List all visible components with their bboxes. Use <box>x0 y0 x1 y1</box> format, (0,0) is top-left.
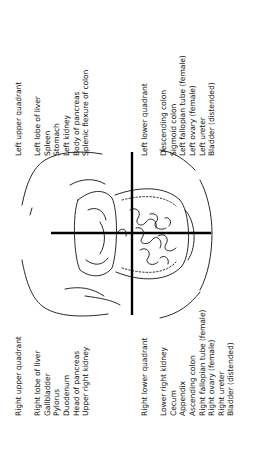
quadrant-right-upper: Right upper quadrant Right lobe of liver… <box>14 336 91 416</box>
organ-label: Right lobe of liver <box>33 336 43 416</box>
organ-label: Spleen <box>43 70 53 156</box>
organ-label: Right ureter <box>217 310 227 416</box>
organ-label: Bladder (distended) <box>207 55 217 156</box>
organ-label: Left ovary (female) <box>188 55 198 156</box>
organ-label: Right fallopian tube (female) <box>198 310 208 416</box>
organ-label: Duodenum <box>62 336 72 416</box>
organ-label: Appendix <box>178 310 188 416</box>
quadrant-left-upper: Left upper quadrant Left lobe of liver S… <box>14 70 91 156</box>
organ-label: Cecum <box>169 310 179 416</box>
organ-label: Head of pancreas <box>72 336 82 416</box>
torso-outline-top <box>22 152 102 205</box>
organ-label: Left fallopian tube (female) <box>178 55 188 156</box>
organ-label: Lower right kidney <box>159 310 169 416</box>
organ-label: Sigmoid colon <box>169 55 179 156</box>
quadrant-header: Left lower quadrant <box>140 55 150 156</box>
torso-outline-bottom <box>22 260 108 316</box>
organ-label: Bladder (distended) <box>226 310 236 416</box>
organ-label: Left kidney <box>62 70 72 156</box>
organ-label: Right ovary (female) <box>207 310 217 416</box>
organ-label: Gallbladder <box>43 336 53 416</box>
organ-label: Body of pancreas <box>72 70 82 156</box>
quadrant-header: Right upper quadrant <box>14 336 24 416</box>
organ-label: Stomach <box>52 70 62 156</box>
organ-label: Upper right kidney <box>81 336 91 416</box>
quadrant-left-lower: Left lower quadrant Descending colon Sig… <box>140 55 217 156</box>
organ-label: Ascending colon <box>188 310 198 416</box>
organ-label: Splenic flexure of colon <box>81 70 91 156</box>
organ-label: Pylorus <box>52 336 62 416</box>
organ-label: Descending colon <box>159 55 169 156</box>
quadrant-right-lower: Right lower quadrant Lower right kidney … <box>140 310 236 416</box>
organ-label: Left ureter <box>198 55 208 156</box>
organ-label: Left lobe of liver <box>33 70 43 156</box>
quadrant-header: Right lower quadrant <box>140 310 150 416</box>
quadrant-header: Left upper quadrant <box>14 70 24 156</box>
